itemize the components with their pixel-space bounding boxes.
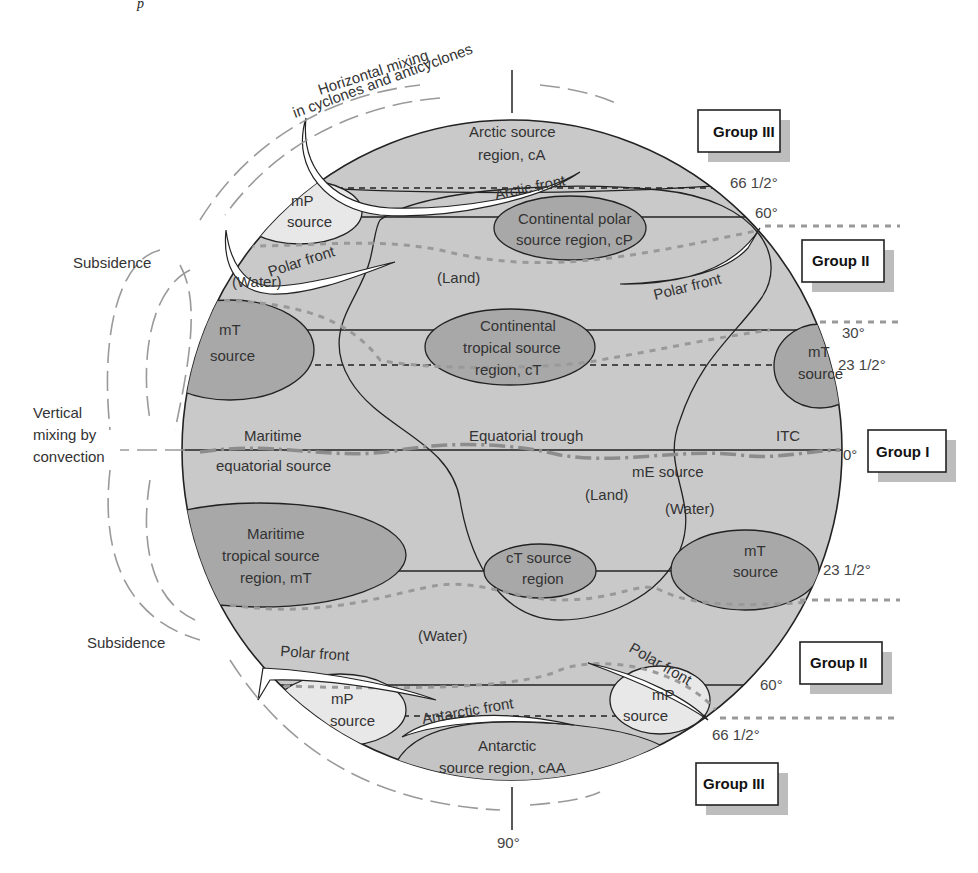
land-n-label: (Land) (437, 269, 480, 286)
mt-nw-label-line1: mT (219, 321, 241, 338)
lat-60-s-label: 60° (760, 676, 783, 693)
subsidence-cell-inner-n (146, 270, 190, 420)
ct-label-line2: tropical source (463, 339, 561, 356)
lat-90-s-label: 90° (497, 834, 520, 851)
group-ii-top-badge: Group II (802, 240, 894, 292)
mt-sw-label-line2: tropical source (222, 547, 320, 564)
lat-23-n-label: 23 1/2° (838, 356, 886, 373)
mp-se-label-line2: source (623, 707, 668, 724)
land-s-label: (Land) (585, 486, 628, 503)
ct-label-line1: Continental (480, 317, 556, 334)
lat-23-s-label: 23 1/2° (823, 561, 871, 578)
mt-sw-label-line3: region, mT (240, 569, 312, 586)
svg-text:Group III: Group III (713, 123, 775, 140)
itc-label: ITC (776, 427, 800, 444)
me-west-label-line1: Maritime (244, 427, 302, 444)
cp-label-line2: source region, cP (516, 231, 633, 248)
vertical-mixing-label-line2: mixing by (33, 426, 97, 443)
mp-sw-label-line2: source (330, 712, 375, 729)
ct-s-label-line1: cT source (506, 549, 572, 566)
horizontal-mixing-arrow-ne (540, 85, 620, 105)
mt-nw-label-line2: source (210, 347, 255, 364)
caption-fragment: p (137, 0, 144, 12)
svg-text:Group II: Group II (810, 654, 868, 671)
mp-nw-label-line1: mP (291, 192, 314, 209)
mp-nw-ellipse (238, 180, 362, 244)
mt-se-label-line2: source (733, 563, 778, 580)
mp-sw-label-line1: mP (331, 690, 354, 707)
globe-diagram-svg: in cyclones and anticyclones Horizontal … (0, 0, 978, 873)
antarctic-label-line2: source region, cAA (439, 759, 566, 776)
mp-se-label-line1: mP (652, 686, 675, 703)
mt-ne-label-line2: source (798, 365, 843, 382)
water-s-label: (Water) (418, 627, 467, 644)
vertical-mixing-label-line3: convection (33, 448, 105, 465)
group-iii-top-badge: Group III (698, 110, 790, 162)
mt-se-label-line1: mT (744, 542, 766, 559)
cp-source-ellipse (494, 196, 646, 260)
group-i-badge: Group I (868, 430, 956, 482)
lat-66-s-label: 66 1/2° (712, 726, 760, 743)
air-mass-source-regions-diagram: p (0, 0, 978, 873)
arctic-label-line1: Arctic source (469, 123, 556, 140)
ct-s-label-line2: region (522, 570, 564, 587)
ct-label-line3: region, cT (475, 361, 542, 378)
svg-text:Group I: Group I (876, 443, 929, 460)
arctic-label-line2: region, cA (478, 146, 546, 163)
mt-ne-label-line1: mT (808, 343, 830, 360)
lat-66-n-label: 66 1/2° (730, 174, 778, 191)
lat-30-n-label: 30° (842, 324, 865, 341)
antarctic-label-line1: Antarctic (478, 737, 537, 754)
subsidence-label-top: Subsidence (73, 254, 151, 271)
mt-sw-label-line1: Maritime (247, 525, 305, 542)
me-west-label-line2: equatorial source (216, 457, 331, 474)
water-se-label: (Water) (665, 500, 714, 517)
subsidence-label-bottom: Subsidence (87, 634, 165, 651)
svg-text:Group III: Group III (703, 775, 765, 792)
lat-60-n-label: 60° (755, 204, 778, 221)
mp-nw-label-line2: source (287, 213, 332, 230)
subsidence-cell-outer-n (107, 250, 160, 430)
group-iii-bottom-badge: Group III (696, 763, 788, 815)
cp-label-line1: Continental polar (518, 210, 631, 227)
group-ii-bottom-badge: Group II (800, 642, 892, 694)
svg-text:Group II: Group II (812, 252, 870, 269)
equatorial-trough-label: Equatorial trough (469, 427, 583, 444)
lat-0-label: 0° (843, 446, 857, 463)
horizontal-mixing-arrow-se (530, 792, 600, 805)
vertical-mixing-label-line1: Vertical (33, 404, 82, 421)
me-east-label: mE source (632, 463, 704, 480)
